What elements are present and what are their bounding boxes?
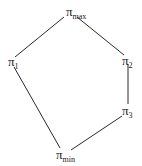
node-pi-3: π3	[122, 104, 133, 120]
node-symbol: π	[122, 53, 129, 68]
edge-max-2	[77, 17, 124, 55]
node-pi-min: πmin	[56, 148, 75, 164]
node-pi-1: π1	[8, 55, 19, 71]
node-subscript: 2	[129, 61, 133, 70]
node-subscript: min	[63, 155, 75, 164]
node-subscript: 3	[129, 111, 133, 120]
edge-max-1	[15, 17, 64, 57]
node-symbol: π	[8, 54, 15, 69]
node-subscript: 1	[15, 62, 19, 71]
node-symbol: π	[56, 147, 63, 162]
node-pi-2: π2	[122, 54, 133, 70]
edge-3-min	[71, 116, 122, 150]
node-symbol: π	[66, 4, 73, 19]
lattice-edges	[0, 0, 142, 166]
node-subscript: max	[73, 12, 87, 21]
node-pi-max: πmax	[66, 5, 86, 21]
edge-1-min	[14, 67, 60, 148]
node-symbol: π	[122, 103, 129, 118]
